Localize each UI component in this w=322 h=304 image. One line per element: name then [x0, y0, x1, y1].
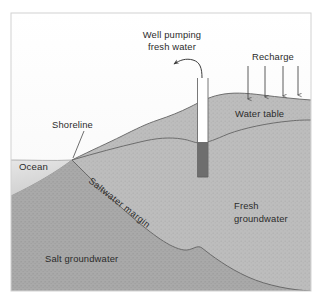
label-well-pumping-line1: Well pumping — [143, 29, 201, 40]
label-water-table: Water table — [235, 108, 284, 119]
diagram-canvas: Well pumping fresh water Recharge Water … — [0, 0, 322, 304]
well-screen — [198, 142, 209, 177]
label-fresh-groundwater-line2: groundwater — [234, 213, 288, 224]
diagram-figure: Well pumping fresh water Recharge Water … — [0, 0, 322, 304]
label-shoreline: Shoreline — [52, 119, 93, 130]
label-fresh-groundwater-line1: Fresh — [234, 200, 259, 211]
pumping-well — [198, 78, 209, 177]
label-recharge: Recharge — [252, 51, 294, 62]
label-salt-groundwater: Salt groundwater — [45, 253, 118, 264]
well-casing — [198, 78, 209, 142]
label-well-pumping-line2: fresh water — [148, 41, 196, 52]
label-ocean: Ocean — [19, 161, 48, 172]
